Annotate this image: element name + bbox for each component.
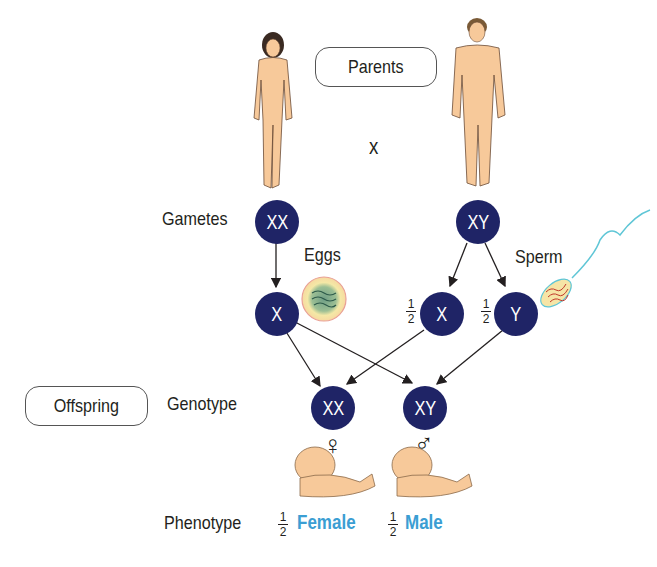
node-egg-x: X xyxy=(255,292,299,336)
male-symbol-icon: ♂ xyxy=(414,428,434,459)
genotype-label: Genotype xyxy=(167,393,237,415)
node-mother-gamete: XX xyxy=(255,200,299,244)
egg-cell-icon xyxy=(302,277,346,321)
fraction-sperm-x: 12 xyxy=(406,298,416,325)
node-sperm-x: X xyxy=(420,292,464,336)
father-figure-icon xyxy=(452,18,505,186)
fraction-sperm-y: 12 xyxy=(481,298,491,325)
parents-label: Parents xyxy=(315,47,437,87)
node-offspring-male: XY xyxy=(403,386,447,430)
phenotype-female: Female xyxy=(297,511,356,534)
node-sperm-y: Y xyxy=(494,292,538,336)
cross-symbol: x xyxy=(369,134,378,160)
mother-figure-icon xyxy=(254,32,292,188)
offspring-label: Offspring xyxy=(25,386,148,426)
female-symbol-icon: ♀ xyxy=(323,430,343,461)
eggs-label: Eggs xyxy=(304,244,341,266)
phenotype-label: Phenotype xyxy=(164,512,241,534)
phenotype-male: Male xyxy=(405,511,443,534)
fraction-female: 12 xyxy=(278,511,288,538)
sperm-label: Sperm xyxy=(515,246,563,268)
node-father-gamete: XY xyxy=(456,200,500,244)
fraction-male: 12 xyxy=(388,511,398,538)
gametes-label: Gametes xyxy=(162,208,228,230)
node-offspring-female: XX xyxy=(311,386,355,430)
